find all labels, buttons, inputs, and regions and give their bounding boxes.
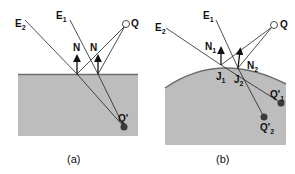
label-q: Q xyxy=(131,18,139,29)
curved-surface xyxy=(165,68,286,145)
caption-b: (b) xyxy=(216,153,229,165)
light-source-q xyxy=(271,22,278,29)
panel-b: E2 E1 Q N1 N2 J1 J2 Q'1 Q'2 (b) xyxy=(155,10,288,165)
flat-surface xyxy=(18,74,138,136)
caption-a: (a) xyxy=(67,153,80,165)
label-q: Q xyxy=(280,19,288,30)
label-e2: E2 xyxy=(155,22,166,35)
label-q-prime: Q' xyxy=(118,113,128,124)
label-n-right: N xyxy=(90,42,97,53)
label-e1: E1 xyxy=(56,10,67,23)
light-source-q xyxy=(123,21,130,28)
virtual-image-q2 xyxy=(261,114,268,121)
ray-e2 xyxy=(25,20,77,74)
reflection-diagram: E2 E1 Q N N Q' (a) E2 E1 Q N1 N2 J1 J2 Q… xyxy=(0,0,295,174)
panel-a: E2 E1 Q N N Q' (a) xyxy=(15,10,139,165)
label-n1: N1 xyxy=(205,41,216,54)
label-e1: E1 xyxy=(203,10,214,23)
label-n-left: N xyxy=(73,42,80,53)
label-e2: E2 xyxy=(15,18,26,31)
virtual-image-q-prime xyxy=(121,124,128,131)
